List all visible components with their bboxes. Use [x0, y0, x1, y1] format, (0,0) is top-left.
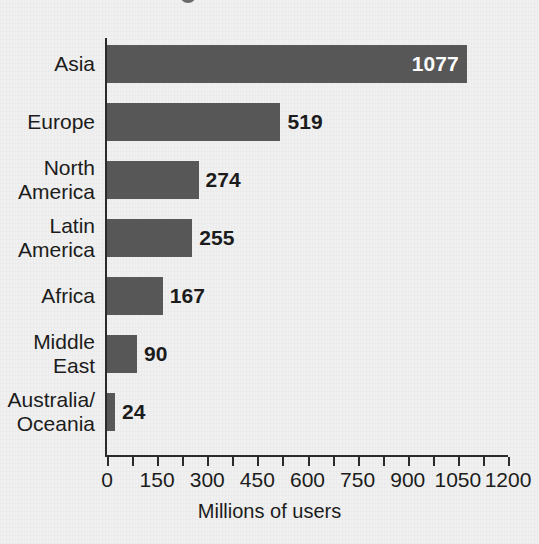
x-tick-label: 0 — [101, 468, 113, 492]
bar-row: 90 — [107, 335, 508, 373]
x-tick-major — [458, 457, 460, 466]
category-label: MiddleEast — [0, 330, 95, 378]
title-glyph-remnant — [180, 0, 196, 3]
x-tick-minor — [282, 457, 284, 466]
x-tick-minor — [483, 457, 485, 466]
bar-chart: AsiaEuropeNorthAmericaLatinAmericaAfrica… — [0, 0, 539, 544]
x-axis-tick-labels: 015030045060075090010501200 — [0, 468, 539, 496]
x-tick-minor — [333, 457, 335, 466]
category-label: Africa — [0, 284, 95, 308]
category-label: Australia/Oceania — [0, 388, 95, 436]
bar-row: 167 — [107, 277, 508, 315]
x-tick-label: 450 — [240, 468, 275, 492]
x-tick-label: 600 — [290, 468, 325, 492]
bar-value-label: 519 — [287, 110, 322, 134]
x-tick-label: 150 — [140, 468, 175, 492]
bar-row: 1077 — [107, 45, 508, 83]
bar[interactable] — [107, 219, 192, 257]
bar-row: 24 — [107, 393, 508, 431]
x-axis-ticks — [107, 457, 508, 467]
x-tick-major — [157, 457, 159, 466]
x-tick-label: 1200 — [485, 468, 532, 492]
bar-row: 255 — [107, 219, 508, 257]
category-label-line: Europe — [0, 110, 95, 134]
cropped-title-fragment — [178, 0, 200, 5]
category-label: Europe — [0, 110, 95, 134]
bar-row: 274 — [107, 161, 508, 199]
bar-value-label: 274 — [206, 168, 241, 192]
x-tick-minor — [433, 457, 435, 466]
bar-value-label: 24 — [122, 400, 146, 424]
category-label-line: Africa — [0, 284, 95, 308]
category-label-line: Australia/ — [0, 388, 95, 412]
bar-value-label: 1077 — [412, 52, 459, 76]
x-tick-major — [257, 457, 259, 466]
bar-row: 519 — [107, 103, 508, 141]
x-axis-title: Millions of users — [0, 500, 539, 523]
bar[interactable] — [107, 277, 163, 315]
category-label-line: Middle — [0, 330, 95, 354]
x-tick-major — [308, 457, 310, 466]
category-label: NorthAmerica — [0, 156, 95, 204]
bar[interactable] — [107, 393, 115, 431]
x-tick-label: 300 — [190, 468, 225, 492]
x-tick-minor — [232, 457, 234, 466]
x-tick-label: 1050 — [435, 468, 482, 492]
x-tick-major — [408, 457, 410, 466]
bar-value-label: 255 — [199, 226, 234, 250]
category-label-line: North — [0, 156, 95, 180]
category-label: LatinAmerica — [0, 214, 95, 262]
x-tick-major — [107, 457, 109, 466]
plot-area: 10775192742551679024 — [107, 38, 508, 455]
bar-value-label: 90 — [144, 342, 168, 366]
category-label-line: East — [0, 354, 95, 378]
bar[interactable] — [107, 335, 137, 373]
x-tick-major — [508, 457, 510, 466]
bar-value-label: 167 — [170, 284, 205, 308]
category-label: Asia — [0, 52, 95, 76]
x-tick-label: 750 — [340, 468, 375, 492]
x-tick-minor — [132, 457, 134, 466]
category-label-line: Oceania — [0, 412, 95, 436]
category-label-line: Latin — [0, 214, 95, 238]
x-tick-minor — [182, 457, 184, 466]
category-label-line: America — [0, 238, 95, 262]
category-label-line: Asia — [0, 52, 95, 76]
x-tick-major — [207, 457, 209, 466]
x-tick-label: 900 — [390, 468, 425, 492]
x-tick-minor — [383, 457, 385, 466]
bar[interactable] — [107, 161, 199, 199]
category-label-line: America — [0, 180, 95, 204]
bar[interactable] — [107, 103, 280, 141]
x-tick-major — [358, 457, 360, 466]
